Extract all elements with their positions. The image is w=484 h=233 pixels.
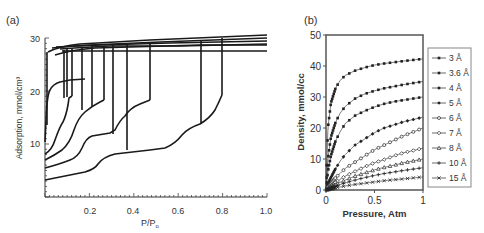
adsorption-curve-4: [45, 100, 150, 168]
x-tick-label-0.6: 0.6: [172, 206, 185, 216]
legend-label: 10 Å: [449, 158, 467, 168]
legend-label: 3 Å: [449, 53, 462, 63]
x-tick-label-0.4: 0.4: [127, 206, 140, 216]
legend-label: 6 Å: [449, 113, 462, 123]
legend-label: 3.6 Å: [449, 68, 469, 78]
x-tick-label-1: 1: [420, 195, 426, 206]
x-tick-label-0.2: 0.2: [84, 206, 97, 216]
x-tick-label-0.8: 0.8: [216, 206, 229, 216]
x-tick-label-0.5: 0.5: [368, 195, 382, 206]
y-axis-label: Density, mmol/cc: [295, 73, 306, 150]
x-axis-label: P/Po: [141, 218, 160, 229]
panel-b: (b) 50 40 30 20 10 0 Density, mmol/cc 0 …: [295, 14, 471, 219]
y-axis-label: Adsorption, mmol/cm³: [14, 77, 24, 160]
y-tick-label-40: 40: [310, 61, 322, 72]
legend-label: 4 Å: [449, 83, 462, 93]
y-tick-label-50: 50: [310, 30, 322, 41]
y-tick-label-20: 20: [30, 87, 40, 97]
adsorption-curve-3: [45, 100, 104, 160]
panel-a: (a) 30 20 10 Adsorption, mmol/cm³ 0.2 0.…: [6, 14, 272, 229]
legend-label: 8 Å: [449, 143, 462, 153]
adsorption-curve-2: [45, 96, 72, 154]
legend-label: 15 Å: [449, 173, 467, 183]
x-tick-label-1.0: 1.0: [260, 206, 273, 216]
panel-a-label: (a): [6, 14, 19, 26]
y-tick-label-0: 0: [315, 185, 321, 196]
x-tick-label-0: 0: [323, 195, 329, 206]
panel-b-label: (b): [304, 14, 317, 26]
adsorption-curve-1: [45, 79, 85, 142]
x-axis-label: Pressure, Atm: [342, 208, 406, 219]
y-tick-label-10: 10: [30, 139, 40, 149]
figure: (a) 30 20 10 Adsorption, mmol/cm³ 0.2 0.…: [0, 0, 484, 233]
y-tick-label-30: 30: [310, 92, 322, 103]
y-tick-label-10: 10: [310, 154, 322, 165]
legend-label: 5 Å: [449, 98, 462, 108]
x-axis-minor-ticks: [45, 193, 267, 197]
legend-label: 7 Å: [449, 128, 462, 138]
y-tick-label-20: 20: [310, 123, 322, 134]
isotherm-curves: [45, 35, 267, 180]
legend: 3 Å3.6 Å4 Å5 Å6 Å7 Å8 Å10 Å15 Å: [428, 48, 471, 187]
y-tick-label-30: 30: [30, 34, 40, 44]
